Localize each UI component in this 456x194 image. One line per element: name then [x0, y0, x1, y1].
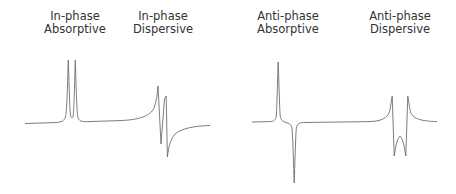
spectra-diagram: [0, 0, 456, 194]
anti-phase-trace: [252, 62, 437, 183]
in-phase-trace: [25, 60, 210, 157]
